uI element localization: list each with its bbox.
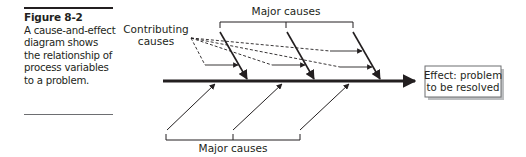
contributing-causes-label-line2: causes	[138, 35, 174, 47]
top-major-causes-label: Major causes	[252, 5, 321, 17]
cause-effect-diagram: Major causes Contributing causes Major c…	[0, 0, 526, 157]
effect-label-line1: Effect: problem	[424, 70, 502, 81]
bottom-major-causes-bracket	[166, 134, 300, 140]
top-major-causes-bracket	[220, 22, 353, 28]
contributing-cause-lines	[191, 38, 372, 67]
bottom-major-causes-label: Major causes	[199, 142, 268, 154]
contributing-causes-label-line1: Contributing	[123, 23, 188, 35]
contributing-cause-4	[191, 38, 340, 67]
effect-box: Effect: problem to be resolved	[424, 66, 504, 100]
bottom-major-cause-bones	[167, 84, 349, 130]
effect-label-line2: to be resolved	[427, 82, 500, 93]
